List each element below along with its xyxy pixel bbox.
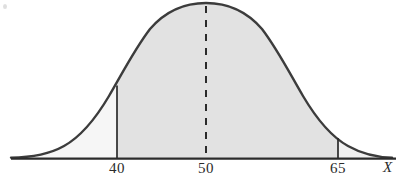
shaded-area-40-to-65 bbox=[11, 3, 392, 158]
x-tick-label-40: 40 bbox=[97, 160, 137, 177]
normal-distribution-figure: 40 50 65 X bbox=[0, 0, 403, 178]
x-axis-label: X bbox=[383, 159, 392, 176]
x-tick-label-50: 50 bbox=[186, 160, 226, 177]
distribution-plot bbox=[0, 0, 403, 178]
x-tick-label-65: 65 bbox=[318, 160, 358, 177]
